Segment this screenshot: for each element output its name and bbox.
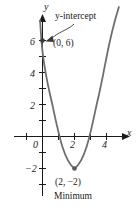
parabola-curve [40, 7, 119, 169]
x-tick-label-4: 4 [102, 140, 107, 150]
y-tick-label-4: 4 [30, 69, 35, 79]
y-tick-label-minus-2: −2 [25, 164, 37, 174]
vertex-coordinate-label: (2, −2) [55, 178, 81, 188]
y-tick-label-2: 2 [30, 101, 35, 111]
vertex-point-marker [72, 166, 77, 171]
minimum-annotation-label: Minimum [54, 192, 92, 202]
y-axis-label: y [44, 2, 48, 12]
x-tick-label-0: 0 [33, 140, 38, 150]
y-tick-label-6: 6 [30, 37, 35, 47]
y-intercept-coordinate-label: (0, 6) [53, 39, 74, 49]
x-tick-label-2: 2 [70, 140, 75, 150]
y-intercept-annotation-label: y-intercept [55, 12, 96, 22]
x-axis-label: x [127, 128, 131, 138]
y-intercept-point-marker [40, 38, 45, 43]
parabola-figure: y x 6 4 2 −2 0 2 4 y-intercept (0, 6) (2… [0, 0, 137, 212]
